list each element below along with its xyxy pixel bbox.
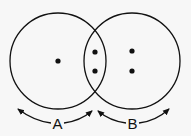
dot-b-only-2 [129,68,134,73]
label-a: A [52,115,62,132]
dot-intersection-2 [92,68,97,73]
dot-intersection-1 [92,49,97,54]
arrow-b-right [139,109,169,123]
dot-b-only-1 [129,48,134,53]
arrow-a-left [18,109,51,123]
venn-diagram: A B [0,0,191,136]
circle-b [84,13,180,109]
dot-a-only [55,58,60,63]
arrow-a-right [64,111,92,123]
arrow-b-left [98,111,126,123]
label-b: B [127,115,137,132]
